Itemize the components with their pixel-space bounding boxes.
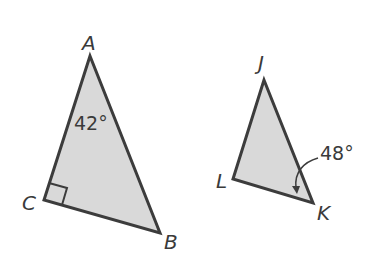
vertex-label-k: K [317,201,332,225]
vertex-label-c: C [22,191,36,215]
diagram-canvas: A B C 42° J K L 48° [0,0,374,265]
triangle-jkl-shape [233,80,313,203]
vertex-label-b: B [164,230,178,254]
vertex-label-l: L [216,169,227,193]
triangle-abc-shape [44,56,160,233]
triangle-jkl: J K L 48° [216,51,354,225]
vertex-label-a: A [80,31,96,55]
angle-label-a: 42° [74,112,108,134]
vertex-label-j: J [254,51,264,75]
triangle-abc: A B C 42° [22,31,178,254]
angle-label-k: 48° [320,142,354,164]
